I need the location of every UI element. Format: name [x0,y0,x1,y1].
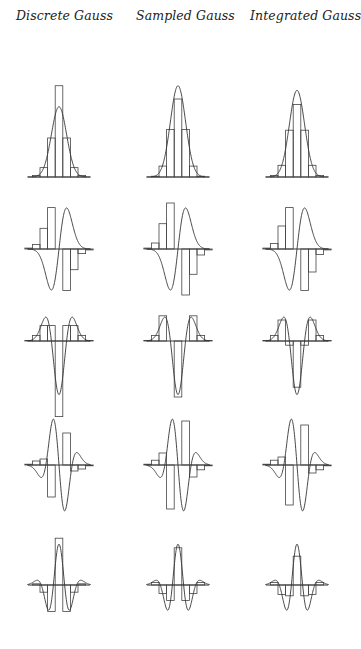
kernel-bar [167,203,175,249]
kernel-bar [197,249,205,255]
kernel-bar [151,583,159,585]
kernel-bar [316,583,324,585]
continuous-gaussian-curve [265,90,329,177]
kernel-bar [205,465,213,466]
panel-integrated-gauss-order-4 [265,544,329,610]
kernel-bar [263,464,271,465]
continuous-gaussian-curve [146,317,210,394]
kernel-bar [167,465,175,509]
kernel-bar [151,460,159,465]
kernel-bar [308,249,316,272]
kernel-bar [182,129,190,177]
kernel-bar [182,249,190,295]
kernel-bar [40,326,48,341]
kernel-bar [278,320,286,341]
kernel-bar [301,130,309,177]
kernel-bar [286,208,294,249]
kernel-bar [86,465,94,466]
kernel-bar [308,320,316,341]
kernel-bar [40,585,48,592]
kernel-bar [48,465,56,497]
kernel-bar [159,585,167,593]
kernel-bar [278,226,286,249]
kernel-bar [159,224,167,249]
kernel-bar [32,461,40,465]
continuous-gaussian-curve [146,86,210,177]
panel-integrated-gauss-order-0 [265,90,329,177]
kernel-bar [144,464,152,465]
kernel-bar [270,583,278,585]
continuous-gaussian-curve [27,107,91,177]
panel-discrete-gauss-order-4 [27,538,91,611]
kernel-bar [63,433,71,465]
kernel-bar [63,249,71,290]
kernel-bar [301,425,309,465]
kernel-bar [48,138,56,177]
kernel-bar [40,228,48,249]
kernel-bar [174,99,182,177]
kernel-bar [151,243,159,249]
panel-discrete-gauss-order-1 [25,208,93,291]
continuous-gaussian-curve [146,544,210,610]
kernel-bar [316,249,324,255]
kernel-bar [32,584,40,585]
panel-sampled-gauss-order-0 [146,86,210,177]
panel-integrated-gauss-order-2 [263,317,331,394]
kernel-bar [174,341,182,397]
kernel-bar [182,421,190,465]
kernel-bar [48,208,56,249]
kernel-bar [32,244,40,249]
kernel-bar [78,249,86,254]
panel-sampled-gauss-order-1 [144,203,212,295]
kernel-bar [301,585,309,596]
kernel-bar [55,86,63,177]
kernel-bar [25,464,33,465]
kernel-bar [189,249,197,274]
kernel-bar [70,249,78,270]
kernel-bar [197,465,205,470]
continuous-gaussian-curve [27,317,91,394]
kernel-bar [182,585,190,601]
kernel-bar [293,341,301,387]
kernel-bar [324,465,332,466]
kernel-bar [286,585,294,596]
kernel-bar [270,460,278,465]
continuous-gaussian-curve [265,317,329,394]
panel-integrated-gauss-order-1 [263,208,331,291]
kernel-bar [189,585,197,593]
panel-sampled-gauss-order-2 [144,316,212,397]
kernel-bar [70,326,78,341]
panel-sampled-gauss-order-4 [146,544,210,610]
kernel-bar [78,465,86,469]
panel-discrete-gauss-order-2 [25,317,93,416]
kernel-bar [301,249,309,290]
kernel-bar [286,465,294,505]
kernel-bar [78,584,86,585]
kernel-bar [63,138,71,177]
kernel-bar [167,129,175,177]
kernel-bar [63,585,71,611]
panel-discrete-gauss-order-0 [27,86,91,177]
continuous-gaussian-curve [265,544,329,610]
kernel-bar [55,538,63,585]
kernel-bar [167,585,175,601]
kernel-bar [70,585,78,592]
panel-discrete-gauss-order-3 [25,419,93,511]
kernel-bar [55,341,63,417]
panel-integrated-gauss-order-3 [263,419,331,511]
kernel-bar [286,130,294,177]
kernel-bar [293,104,301,177]
kernel-bar [293,556,301,585]
kernel-bar [48,585,56,611]
kernel-bar [316,465,324,470]
panel-sampled-gauss-order-3 [144,419,212,511]
kernel-bar [197,583,205,585]
kernel-bar [270,243,278,249]
continuous-gaussian-curve [27,544,91,610]
